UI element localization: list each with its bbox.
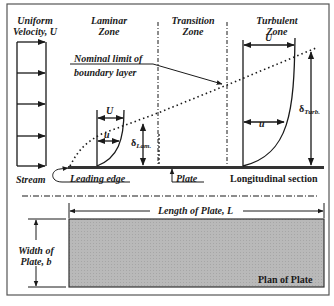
plate-label: Plate <box>176 173 197 184</box>
transition-zone-line2: Zone <box>166 26 220 37</box>
laminar-zone-label: Laminar Zone <box>86 15 132 37</box>
width-of-plate-label: Width of Plate, b <box>12 245 60 267</box>
delta-lam-label: δLam. <box>131 137 151 152</box>
laminar-zone-line1: Laminar <box>86 15 132 26</box>
length-of-plate-label: Length of Plate, L <box>158 205 233 216</box>
turbulent-zone-line2: Zone <box>252 26 302 37</box>
uniform-velocity-profile <box>17 42 46 166</box>
transition-zone-line1: Transition <box>166 15 220 26</box>
longitudinal-section-label: Longitudinal section <box>230 173 318 184</box>
leading-edge-label: Leading edge <box>70 173 125 184</box>
laminar-zone-line2: Zone <box>86 26 132 37</box>
turbulent-u-label: u <box>259 118 265 129</box>
delta-lam-subscript: Lam. <box>136 142 151 150</box>
zone-dividers <box>158 22 227 166</box>
delta-turb-subscript: Turb. <box>304 108 320 116</box>
stream-label: Stream <box>16 174 45 185</box>
laminar-U-label: U <box>106 105 113 116</box>
uniform-velocity-line2: Velocity, U <box>12 26 58 37</box>
width-line2: Plate, b <box>12 256 60 267</box>
turbulent-U-label: U <box>265 32 272 43</box>
turbulent-velocity-profile <box>243 38 311 166</box>
uniform-velocity-label: Uniform Velocity, U <box>12 15 58 37</box>
turbulent-zone-label: Turbulent Zone <box>252 15 302 37</box>
nominal-limit-line1: Nominal limit of <box>74 53 142 64</box>
plan-of-plate-label: Plan of Plate <box>258 274 312 285</box>
laminar-u-label: u <box>104 129 110 140</box>
width-line1: Width of <box>12 245 60 256</box>
uniform-velocity-line1: Uniform <box>12 15 58 26</box>
plate-section <box>68 166 324 169</box>
nominal-limit-line2: boundary layer <box>74 67 137 78</box>
delta-turb-label: δTurb. <box>299 103 320 118</box>
turbulent-zone-line1: Turbulent <box>252 15 302 26</box>
transition-zone-label: Transition Zone <box>166 15 220 37</box>
